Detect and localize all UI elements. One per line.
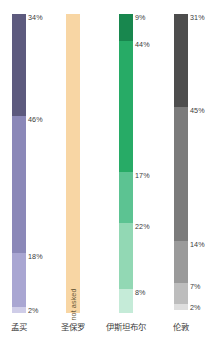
category-label: 伦敦 <box>152 322 210 333</box>
bar-group[interactable]: 34%46%18%2%孟买 <box>12 0 26 345</box>
bar-segment-label: 2% <box>28 306 39 315</box>
bar-segment[interactable] <box>66 14 80 313</box>
bar-segment-label: 46% <box>28 115 43 124</box>
bar-segment-label: 22% <box>135 222 150 231</box>
bar-segment-label: 8% <box>135 288 146 297</box>
bar-segment-label: 14% <box>190 240 205 249</box>
bar-segment[interactable]: 34% <box>12 14 26 116</box>
bar-stack: 34%46%18%2% <box>12 14 26 313</box>
bar-segment[interactable]: 17% <box>119 172 133 223</box>
bar-segment[interactable]: 9% <box>119 14 133 41</box>
bar-group[interactable]: not asked圣保罗 <box>66 0 80 345</box>
stacked-bar-chart: 34%46%18%2%孟买not asked圣保罗9%44%17%22%8%伊斯… <box>0 0 212 345</box>
bar-segment-label: 7% <box>190 282 201 291</box>
bar-group[interactable]: 31%45%14%7%2%伦敦 <box>174 0 188 345</box>
bar-segment-label: 18% <box>28 252 43 261</box>
bar-segment[interactable]: 45% <box>174 107 188 242</box>
bar-segment-label: 9% <box>135 13 146 22</box>
bar-stack: 9%44%17%22%8% <box>119 14 133 313</box>
bar-segment-label: 31% <box>190 13 205 22</box>
bar-segment[interactable]: 2% <box>174 304 188 310</box>
bar-segment[interactable]: 14% <box>174 241 188 283</box>
bar-segment[interactable]: 8% <box>119 289 133 313</box>
bar-segment[interactable]: 22% <box>119 223 133 289</box>
category-label: 伊斯坦布尔 <box>97 322 155 333</box>
category-label: 孟买 <box>0 322 48 333</box>
bar-segment[interactable]: 44% <box>119 41 133 173</box>
bar-segment-label: 2% <box>190 303 201 312</box>
bar-segment-label: 44% <box>135 40 150 49</box>
bar-stack <box>66 14 80 313</box>
bar-segment[interactable]: 18% <box>12 253 26 307</box>
bar-segment[interactable]: 2% <box>12 307 26 313</box>
category-label: 圣保罗 <box>44 322 102 333</box>
bar-segment[interactable]: 7% <box>174 283 188 304</box>
bar-segment-label: 34% <box>28 13 43 22</box>
bar-stack: 31%45%14%7%2% <box>174 14 188 313</box>
bar-segment-label: 17% <box>135 171 150 180</box>
bar-segment[interactable]: 31% <box>174 14 188 107</box>
bar-segment[interactable]: 46% <box>12 116 26 254</box>
bar-segment-label: 45% <box>190 106 205 115</box>
bar-group[interactable]: 9%44%17%22%8%伊斯坦布尔 <box>119 0 133 345</box>
